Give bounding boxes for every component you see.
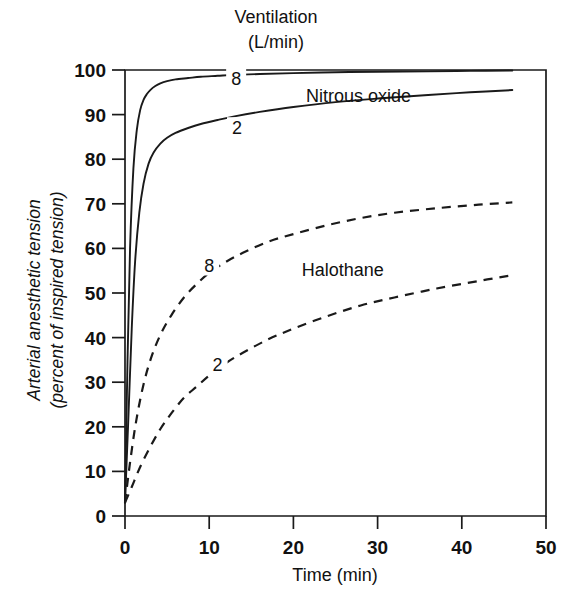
x-axis-ticks: 01020304050 [120,516,557,558]
figure-container: Ventilation (L/min) 01020304050607080901… [0,0,588,612]
chart-title-line2: (L/min) [248,32,304,52]
x-tick-label: 20 [283,537,304,558]
agent-annotation: Halothane [302,260,384,280]
series-labels-group: 8282 [199,68,247,374]
series-ventilation-label: 8 [231,69,241,89]
axis-frame [125,70,546,516]
y-tick-label: 0 [95,506,106,527]
series-curve [125,70,512,502]
y-tick-label: 50 [85,283,106,304]
y-tick-label: 60 [85,238,106,259]
x-tick-label: 10 [199,537,220,558]
series-group [125,70,512,502]
y-tick-label: 100 [74,60,106,81]
y-tick-label: 30 [85,372,106,393]
y-tick-label: 90 [85,105,106,126]
line-chart: Ventilation (L/min) 01020304050607080901… [0,0,588,612]
x-tick-label: 0 [120,537,131,558]
series-curve [125,90,512,503]
y-axis-ticks: 0102030405060708090100 [74,60,125,527]
series-ventilation-label: 8 [204,256,214,276]
y-axis-title-line1: Arterial anesthetic tension [24,199,44,401]
y-tick-label: 40 [85,328,106,349]
series-curve [125,202,512,502]
group-annotations-group: Nitrous oxideHalothane [302,86,411,280]
x-tick-label: 30 [367,537,388,558]
y-tick-label: 20 [85,417,106,438]
x-axis-title: Time (min) [292,565,377,585]
series-ventilation-label: 2 [213,355,223,375]
agent-annotation: Nitrous oxide [306,86,411,106]
chart-title-line1: Ventilation [234,7,317,27]
series-curve [125,275,512,502]
series-ventilation-label: 2 [232,118,242,138]
y-tick-label: 70 [85,194,106,215]
x-tick-label: 40 [451,537,472,558]
x-tick-label: 50 [535,537,556,558]
y-tick-label: 10 [85,461,106,482]
y-axis-title-line2: (percent of inspired tension) [47,192,67,409]
y-tick-label: 80 [85,149,106,170]
